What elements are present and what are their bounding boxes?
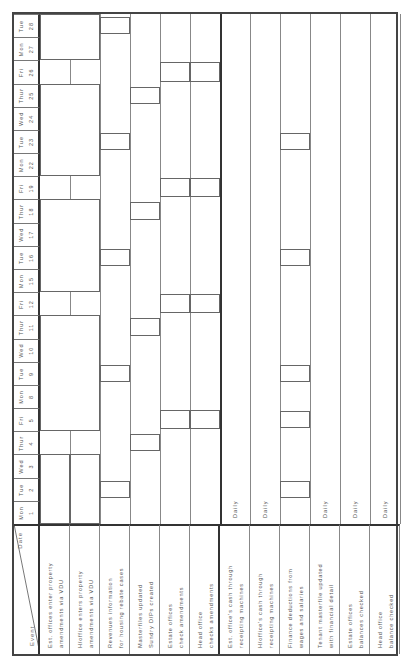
date-number: 23 bbox=[26, 131, 36, 153]
date-day: Tue bbox=[16, 479, 26, 501]
date-number: 10 bbox=[26, 340, 36, 362]
schedule-box bbox=[160, 178, 190, 197]
schedule-box bbox=[100, 481, 130, 498]
schedule-box bbox=[40, 315, 100, 431]
row-divider bbox=[310, 14, 311, 524]
date-day: Thur bbox=[16, 316, 26, 338]
schedule-box bbox=[130, 434, 160, 451]
date-cell: Wed10 bbox=[14, 339, 40, 362]
event-row-label: Revenues informationfor housing rebate c… bbox=[100, 524, 130, 654]
daily-label: Daily bbox=[262, 501, 268, 518]
schedule-box bbox=[130, 87, 160, 104]
date-cell: Tue16 bbox=[14, 246, 40, 269]
row-divider bbox=[160, 14, 161, 524]
date-number: 18 bbox=[26, 200, 36, 222]
date-number: 19 bbox=[26, 177, 36, 199]
date-number: 11 bbox=[26, 316, 36, 338]
date-number: 12 bbox=[26, 293, 36, 315]
date-cell: Thur4 bbox=[14, 431, 40, 454]
row-divider bbox=[250, 14, 251, 524]
date-number: 24 bbox=[26, 108, 36, 130]
date-day: Tue bbox=[16, 247, 26, 269]
date-day: Wed bbox=[16, 224, 26, 246]
date-cell: Mon22 bbox=[14, 153, 40, 176]
event-row-label: Masterfiles updatedSundry D/Ps created bbox=[130, 524, 160, 654]
date-number: 3 bbox=[26, 455, 36, 477]
event-row-label: H/office's cash throughreceipting machin… bbox=[250, 524, 280, 654]
schedule-box bbox=[190, 178, 220, 197]
date-number: 1 bbox=[26, 502, 36, 524]
schedule-box bbox=[100, 365, 130, 382]
date-number: 15 bbox=[26, 270, 36, 292]
schedule-box bbox=[190, 62, 220, 81]
date-number: 4 bbox=[26, 432, 36, 454]
date-day: Mon bbox=[16, 270, 26, 292]
daily-label: Daily bbox=[322, 501, 328, 518]
schedule-table: Date Event Mon1Tue2Wed3Thur4Fri5Mon8Tue9… bbox=[12, 12, 398, 656]
schedule-box bbox=[40, 199, 100, 292]
date-day: Wed bbox=[16, 108, 26, 130]
date-header-label: Date bbox=[17, 532, 23, 549]
date-cell: Mon15 bbox=[14, 269, 40, 292]
date-cell: Tue23 bbox=[14, 130, 40, 153]
event-row-label: Estate officescheck amendments bbox=[160, 524, 190, 654]
schedule-box bbox=[40, 84, 100, 177]
date-cell: Tue2 bbox=[14, 478, 40, 501]
schedule-box bbox=[40, 14, 100, 60]
date-number: 8 bbox=[26, 386, 36, 408]
date-cell: Mon8 bbox=[14, 385, 40, 408]
daily-label: Daily bbox=[352, 501, 358, 518]
date-number: 22 bbox=[26, 154, 36, 176]
daily-label: Daily bbox=[232, 501, 238, 518]
date-cell: Tue28 bbox=[14, 14, 40, 37]
date-number: 26 bbox=[26, 61, 36, 83]
date-day: Thur bbox=[16, 85, 26, 107]
date-number: 28 bbox=[26, 15, 36, 37]
schedule-box bbox=[160, 294, 190, 313]
date-number: 5 bbox=[26, 409, 36, 431]
date-day: Wed bbox=[16, 455, 26, 477]
rotated-page: Date Event Mon1Tue2Wed3Thur4Fri5Mon8Tue9… bbox=[0, 0, 410, 660]
schedule-box bbox=[100, 17, 130, 34]
schedule-box bbox=[130, 202, 160, 219]
header-corner: Date Event bbox=[14, 524, 40, 654]
schedule-box bbox=[190, 294, 220, 313]
date-day: Fri bbox=[16, 409, 26, 431]
schedule-box bbox=[280, 133, 310, 150]
row-divider bbox=[340, 14, 341, 524]
date-cell: Mon27 bbox=[14, 37, 40, 60]
date-number: 9 bbox=[26, 363, 36, 385]
row-divider bbox=[190, 14, 191, 524]
event-row-label: Estate officesbalances checked bbox=[340, 524, 370, 654]
event-row-label: Finance deductions fromwages and salarie… bbox=[280, 524, 310, 654]
date-number: 16 bbox=[26, 247, 36, 269]
daily-label: Daily bbox=[382, 501, 388, 518]
date-cell: Wed24 bbox=[14, 107, 40, 130]
date-cell: Tue9 bbox=[14, 362, 40, 385]
row-divider bbox=[220, 14, 222, 524]
date-cell: Fri26 bbox=[14, 60, 40, 83]
date-day: Tue bbox=[16, 131, 26, 153]
schedule-box bbox=[280, 411, 310, 428]
row-divider bbox=[400, 14, 401, 524]
schedule-box bbox=[190, 410, 220, 429]
date-number: 25 bbox=[26, 85, 36, 107]
schedule-box bbox=[130, 318, 160, 335]
row-divider bbox=[280, 14, 281, 524]
date-day: Mon bbox=[16, 38, 26, 60]
date-cell: Mon1 bbox=[14, 501, 40, 524]
event-row-label: Head officebalance checked bbox=[370, 524, 400, 654]
date-day: Fri bbox=[16, 177, 26, 199]
event-row-label: Est. offices enter propertyamendments vi… bbox=[40, 524, 70, 654]
date-day: Wed bbox=[16, 340, 26, 362]
date-cell: Fri12 bbox=[14, 292, 40, 315]
schedule-box bbox=[280, 249, 310, 266]
event-row-label: Est. office's cash throughreceipting mac… bbox=[220, 524, 250, 654]
date-day: Thur bbox=[16, 432, 26, 454]
date-day: Mon bbox=[16, 502, 26, 524]
date-day: Tue bbox=[16, 363, 26, 385]
schedule-box bbox=[280, 481, 310, 498]
schedule-box bbox=[70, 454, 100, 524]
event-row-label: H/office enters propertyamendments via V… bbox=[70, 524, 100, 654]
schedule-box bbox=[160, 410, 190, 429]
